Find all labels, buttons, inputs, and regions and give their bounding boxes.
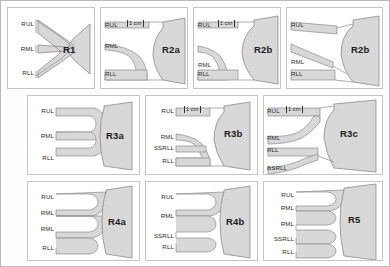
scale-marker: 1 cm bbox=[184, 106, 201, 113]
panel-r4b: R4b RUL RML SSRLL RLL bbox=[145, 181, 258, 261]
scale-marker-label: 1 cm bbox=[286, 106, 303, 113]
variant-code: R2a bbox=[162, 44, 180, 55]
branch-label-rul: RUL bbox=[41, 193, 54, 200]
variant-code: R4a bbox=[108, 216, 126, 227]
scale-marker-label: 1 cm bbox=[184, 106, 201, 113]
branch-label-rml-1: RML bbox=[281, 204, 294, 211]
variant-code: R2b bbox=[351, 44, 370, 55]
panel-r3c: R3c RUL RML RLL BSRLL 1 cm bbox=[263, 95, 383, 175]
branch-label-rml-2: RML bbox=[281, 220, 294, 227]
panel-r2b-2: R2b RUL RML RLL bbox=[286, 7, 383, 89]
branch-label-rll: RLL bbox=[198, 70, 210, 77]
panel-r2a: R2a RUL RML RLL 1 cm bbox=[100, 7, 188, 89]
branch-label-rll: RLL bbox=[267, 146, 279, 153]
panel-r3b: R3b RUL RML SSRLL RLL 1 cm bbox=[145, 95, 258, 175]
branch-label-rml: RML bbox=[267, 134, 280, 141]
branch-label-rul: RUL bbox=[281, 191, 294, 198]
branch-label-rml: RML bbox=[291, 58, 304, 65]
variant-code: R1 bbox=[63, 44, 76, 55]
branch-label-ssrll: SSRLL bbox=[274, 235, 294, 242]
branch-label-rll: RLL bbox=[162, 243, 174, 250]
branch-label-ssrll: SSRLL bbox=[154, 232, 174, 239]
panel-r4a: R4a RUL RML RML RLL bbox=[27, 181, 140, 261]
branch-label-rll: RLL bbox=[22, 69, 34, 76]
branch-label-rll: RLL bbox=[42, 244, 54, 251]
scale-marker: 1 cm bbox=[218, 20, 235, 27]
branch-label-rul: RUL bbox=[291, 21, 304, 28]
variant-code: R2b bbox=[254, 44, 273, 55]
branch-label-rll: RLL bbox=[162, 157, 174, 164]
branch-label-rll: RLL bbox=[282, 248, 294, 255]
branch-label-rml: RML bbox=[41, 132, 54, 139]
branch-label-rml: RML bbox=[161, 212, 174, 219]
branch-label-ssrll: SSRLL bbox=[154, 144, 174, 151]
branch-label-bsrll: BSRLL bbox=[267, 164, 287, 171]
branch-label-rml: RML bbox=[21, 45, 34, 52]
panel-r5: R5 RUL RML RML SSRLL RLL bbox=[263, 181, 383, 261]
bronchial-variant-figure: R1 RUL RML RLL R2a RUL RML RLL 1 cm R2b bbox=[0, 0, 390, 267]
scale-marker-label: 1 cm bbox=[127, 20, 144, 27]
branch-label-rml: RML bbox=[105, 42, 118, 49]
branch-label-rul: RUL bbox=[267, 107, 280, 114]
variant-code: R5 bbox=[348, 214, 361, 225]
scale-marker: 1 cm bbox=[286, 106, 303, 113]
branch-label-rul: RUL bbox=[161, 107, 174, 114]
scale-marker-label: 1 cm bbox=[218, 20, 235, 27]
branch-label-rml-1: RML bbox=[41, 209, 54, 216]
panel-r1: R1 RUL RML RLL bbox=[7, 7, 95, 89]
scale-marker: 1 cm bbox=[127, 20, 144, 27]
branch-label-rul: RUL bbox=[105, 21, 118, 28]
branch-label-rml-2: RML bbox=[41, 225, 54, 232]
variant-code: R3b bbox=[224, 128, 243, 139]
variant-code: R3c bbox=[340, 128, 358, 139]
variant-code: R3a bbox=[106, 130, 124, 141]
branch-label-rml: RML bbox=[161, 133, 174, 140]
branch-label-rul: RUL bbox=[161, 193, 174, 200]
branch-label-rll: RLL bbox=[42, 154, 54, 161]
branch-label-rll: RLL bbox=[105, 70, 117, 77]
branch-label-rul: RUL bbox=[21, 20, 34, 27]
branch-label-rul: RUL bbox=[198, 21, 211, 28]
branch-label-rml: RML bbox=[198, 61, 211, 68]
branch-label-rul: RUL bbox=[41, 107, 54, 114]
variant-code: R4b bbox=[226, 216, 245, 227]
panel-r2b-1: R2b RUL RML RLL 1 cm bbox=[193, 7, 281, 89]
panel-r3a: R3a RUL RML RLL bbox=[27, 95, 140, 175]
branch-label-rll: RLL bbox=[291, 70, 303, 77]
